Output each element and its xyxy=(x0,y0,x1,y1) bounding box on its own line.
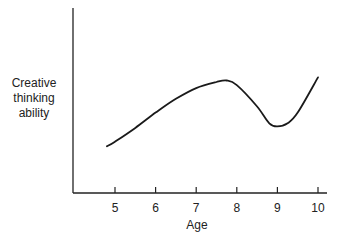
x-tick-label: 6 xyxy=(152,201,159,215)
x-axis-ticks: 5678910 xyxy=(112,187,325,215)
x-tick-label: 9 xyxy=(274,201,281,215)
x-tick-label: 8 xyxy=(233,201,240,215)
x-tick-label: 10 xyxy=(311,201,325,215)
x-tick-label: 5 xyxy=(112,201,119,215)
line-chart: 5678910 Age xyxy=(0,0,337,245)
x-axis-label: Age xyxy=(186,218,208,232)
data-line xyxy=(107,77,318,146)
x-tick-label: 7 xyxy=(193,201,200,215)
